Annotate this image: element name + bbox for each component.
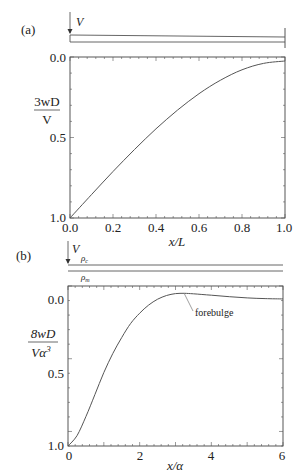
panel-b-curve <box>68 293 283 446</box>
panel-a-label: (a) <box>21 22 35 37</box>
panel-a-xtick-0: 0.0 <box>62 220 78 235</box>
panel-b-xtick-0: 0 <box>66 448 73 463</box>
panel-a-curve <box>70 61 285 218</box>
panel-b-xtick-1: 2 <box>137 448 144 463</box>
panel-b-ytick-0: 0.0 <box>48 292 64 307</box>
panel-b-label: (b) <box>16 248 31 263</box>
panel-b-ylabel: 8wD Vα3 <box>28 326 58 360</box>
rho-c-label: ρc <box>80 253 88 264</box>
panel-b-ylabel-denominator: Vα3 <box>31 344 51 360</box>
panel-b-ytick-1: 0.5 <box>48 366 64 381</box>
panel-a-xtick-1: 0.2 <box>105 220 121 235</box>
panel-a-ylabel-denominator: V <box>42 112 52 127</box>
panel-a-beam-diagram: V <box>68 12 286 48</box>
panel-a-xtick-2: 0.4 <box>148 220 165 235</box>
panel-a-ylabel-numerator: 3wD <box>34 94 59 109</box>
panel-a-ytick-1: 0.5 <box>50 130 66 145</box>
panel-a-ylabel: 3wD V <box>34 94 60 127</box>
panel-b-ylabel-numerator: 8wD <box>31 326 56 341</box>
figure: (a) V 0.0 0.5 1.0 0.0 0.2 0.4 0.6 0.8 1.… <box>0 0 295 474</box>
panel-a-ytick-0: 0.0 <box>50 50 66 65</box>
panel-a-xtick-3: 0.6 <box>191 220 208 235</box>
panel-a-xlabel: x/L <box>168 234 186 249</box>
panel-b-frame <box>68 286 283 446</box>
panel-a-frame <box>70 57 285 218</box>
panel-a-plot: 0.0 0.5 1.0 0.0 0.2 0.4 0.6 0.8 1.0 x/L … <box>34 50 292 249</box>
panel-a-load-label: V <box>76 15 85 29</box>
panel-b-xlabel: x/α <box>166 458 184 473</box>
panel-b-xtick-3: 6 <box>279 448 286 463</box>
arrowhead-icon <box>66 259 71 264</box>
panel-a-xtick-4: 0.8 <box>234 220 250 235</box>
rho-m-label: ρm <box>80 272 90 283</box>
panel-b-xtick-2: 4 <box>208 448 215 463</box>
panel-a-xtick-5: 1.0 <box>276 220 292 235</box>
forebulge-leader-line <box>184 293 193 311</box>
forebulge-annotation: forebulge <box>195 307 234 318</box>
panel-b-load-label: V <box>72 242 81 256</box>
panel-b-ytick-2: 1.0 <box>48 438 64 453</box>
arrowhead-icon <box>68 29 73 34</box>
panel-b-plot: forebulge 0.0 0.5 1.0 0 2 4 6 x/α 8wD Vα… <box>28 286 286 473</box>
